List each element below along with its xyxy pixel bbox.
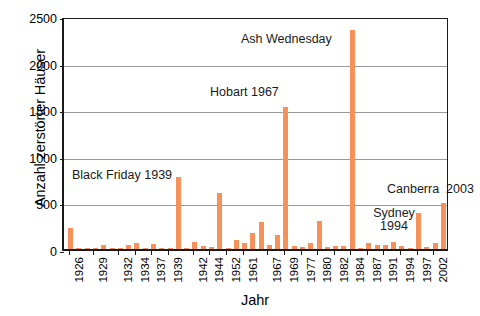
x-tick-mark (118, 251, 119, 255)
x-tick-label: 1961 (248, 257, 260, 283)
x-tick-mark (367, 251, 368, 255)
x-tick-mark (93, 251, 94, 255)
x-tick-label: 1926 (74, 257, 86, 283)
bar (201, 246, 206, 249)
x-tick-mark (209, 251, 210, 255)
bar (143, 248, 148, 250)
bar (168, 248, 173, 250)
x-tick-label: 1994 (405, 257, 417, 283)
bar (226, 248, 231, 250)
bar (250, 233, 255, 249)
x-tick-label: 1939 (173, 257, 185, 283)
x-tick-mark (350, 251, 351, 255)
y-tick-label: 0 (50, 246, 57, 259)
bar (292, 246, 297, 249)
bar (333, 246, 338, 249)
bar (184, 248, 189, 250)
bar (85, 248, 90, 250)
bar (217, 193, 222, 249)
bar (399, 246, 404, 249)
y-tick-mark (60, 252, 64, 253)
x-tick-label: 1997 (422, 257, 434, 283)
bar (192, 242, 197, 249)
x-tick-label: 1984 (355, 257, 367, 283)
bar (317, 221, 322, 249)
bar (151, 244, 156, 249)
bar (93, 248, 98, 250)
bar (325, 247, 330, 249)
x-tick-mark (301, 251, 302, 255)
bar (358, 248, 363, 250)
bar (391, 242, 396, 249)
bar (234, 240, 239, 249)
x-tick-label: 1937 (156, 257, 168, 283)
x-tick-mark (417, 251, 418, 255)
bar (424, 247, 429, 249)
x-tick-label: 1980 (322, 257, 334, 283)
bar-chart: Anzahl zerstörter Häuser 050010001500200… (0, 0, 480, 316)
bar (441, 203, 446, 249)
x-tick-mark (267, 251, 268, 255)
bar (68, 228, 73, 249)
bar (408, 248, 413, 250)
bar (176, 177, 181, 249)
x-tick-mark (383, 251, 384, 255)
x-tick-label: 1967 (272, 257, 284, 283)
annotation-canberra: Canberra 2003 (387, 182, 474, 196)
x-tick-label: 1942 (198, 257, 210, 283)
x-tick-label: 1982 (339, 257, 351, 283)
bar (283, 107, 288, 249)
bar (341, 246, 346, 249)
bar (101, 245, 106, 249)
x-tick-label: 2002 (438, 257, 450, 283)
y-tick-label: 1500 (29, 106, 57, 119)
x-tick-mark (168, 251, 169, 255)
bar (383, 245, 388, 249)
bar (209, 247, 214, 249)
x-tick-label: 1944 (214, 257, 226, 283)
bar (76, 248, 81, 250)
x-tick-mark (433, 251, 434, 255)
x-tick-mark (284, 251, 285, 255)
x-tick-label: 1987 (372, 257, 384, 283)
x-tick-mark (243, 251, 244, 255)
x-tick-mark (317, 251, 318, 255)
annotation-sydney-line2: 1994 (368, 219, 420, 233)
y-tick-label: 2000 (29, 59, 57, 72)
x-tick-label: 1977 (306, 257, 318, 283)
bar (300, 247, 305, 249)
y-tick-label: 1000 (29, 153, 57, 166)
y-tick-label: 2500 (29, 13, 57, 26)
x-tick-mark (151, 251, 152, 255)
bar (275, 235, 280, 249)
bar (267, 245, 272, 249)
x-tick-label: 1952 (231, 257, 243, 283)
x-tick-label: 1969 (289, 257, 301, 283)
bar (308, 243, 313, 249)
bar (366, 243, 371, 249)
x-tick-mark (400, 251, 401, 255)
annotation-black-friday: Black Friday 1939 (72, 168, 172, 182)
x-tick-mark (193, 251, 194, 255)
bar (134, 243, 139, 249)
bar (433, 243, 438, 249)
y-tick-label: 500 (36, 199, 57, 212)
x-tick-mark (135, 251, 136, 255)
bar (159, 248, 164, 250)
annotation-sydney-line1: Sydney (368, 206, 420, 220)
x-tick-mark (69, 251, 70, 255)
bar (350, 30, 355, 249)
bar (259, 222, 264, 249)
x-tick-mark (226, 251, 227, 255)
x-tick-label: 1991 (388, 257, 400, 283)
x-tick-label: 1934 (140, 257, 152, 283)
x-tick-label: 1929 (98, 257, 110, 283)
x-axis-title: Jahr (60, 292, 450, 308)
bar (118, 248, 123, 250)
annotation-ash-wednesday: Ash Wednesday (241, 32, 332, 46)
x-tick-label: 1932 (123, 257, 135, 283)
x-tick-mark (334, 251, 335, 255)
bar (110, 248, 115, 250)
bar (126, 245, 131, 249)
annotation-hobart: Hobart 1967 (210, 85, 279, 99)
